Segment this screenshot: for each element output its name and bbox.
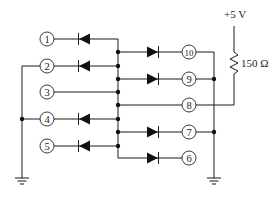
svg-text:8: 8 [186, 100, 191, 111]
svg-text:5: 5 [44, 141, 49, 152]
svg-text:4: 4 [44, 114, 50, 125]
svg-text:1: 1 [44, 34, 49, 45]
diode-node-4 [79, 113, 91, 125]
diode-node-7 [147, 126, 159, 138]
node-2: 2 [40, 59, 54, 73]
junction-dot [20, 117, 24, 121]
supply-label: +5 V [224, 8, 246, 20]
node-9: 9 [182, 72, 196, 86]
node-1: 1 [40, 32, 54, 46]
junction-dot [212, 130, 216, 134]
junction-dot [212, 77, 216, 81]
diode-node-6 [147, 152, 159, 164]
svg-text:3: 3 [44, 87, 49, 98]
diode-node-10 [147, 46, 159, 58]
svg-text:6: 6 [186, 153, 191, 164]
circuit-diagram: 1 2 3 4 5 10 9 8 7 6 +5 V 150 Ω [0, 0, 273, 198]
svg-text:2: 2 [44, 61, 49, 72]
diode-node-9 [147, 73, 159, 85]
node-7: 7 [182, 125, 196, 139]
node-3: 3 [40, 85, 54, 99]
svg-text:10: 10 [185, 48, 195, 58]
resistor-label: 150 Ω [241, 57, 268, 69]
diode-node-2 [79, 60, 91, 72]
svg-text:7: 7 [186, 127, 191, 138]
node-8: 8 [182, 98, 196, 112]
resistor-icon [230, 52, 238, 74]
node-6: 6 [182, 151, 196, 165]
right-ground-icon [207, 178, 221, 184]
node-5: 5 [40, 139, 54, 153]
node-10: 10 [182, 45, 196, 59]
node-4: 4 [40, 112, 54, 126]
svg-text:9: 9 [186, 74, 191, 85]
left-ground-icon [15, 178, 29, 184]
diode-node-1 [79, 33, 91, 45]
diode-node-5 [79, 140, 91, 152]
